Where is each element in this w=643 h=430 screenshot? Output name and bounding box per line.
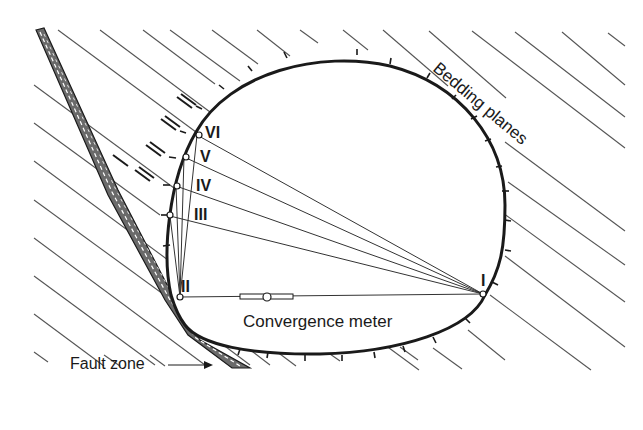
point-V [183,154,189,160]
fault-zone-leader-arrow [168,361,213,369]
label-point-V: V [200,148,211,165]
point-IV [174,183,180,189]
convergence-meter-label: Convergence meter [243,312,393,331]
fault-zone-label: Fault zone [70,355,145,372]
label-point-III: III [194,206,207,223]
point-I [480,291,486,297]
point-III [167,212,173,218]
point-VI [196,132,202,138]
label-point-IV: IV [196,177,211,194]
label-point-VI: VI [205,124,220,141]
tunnel-convergence-diagram: VI V IV III II I Convergence meter Beddi… [0,0,643,430]
label-point-I: I [481,272,485,289]
label-point-II: II [181,278,190,295]
